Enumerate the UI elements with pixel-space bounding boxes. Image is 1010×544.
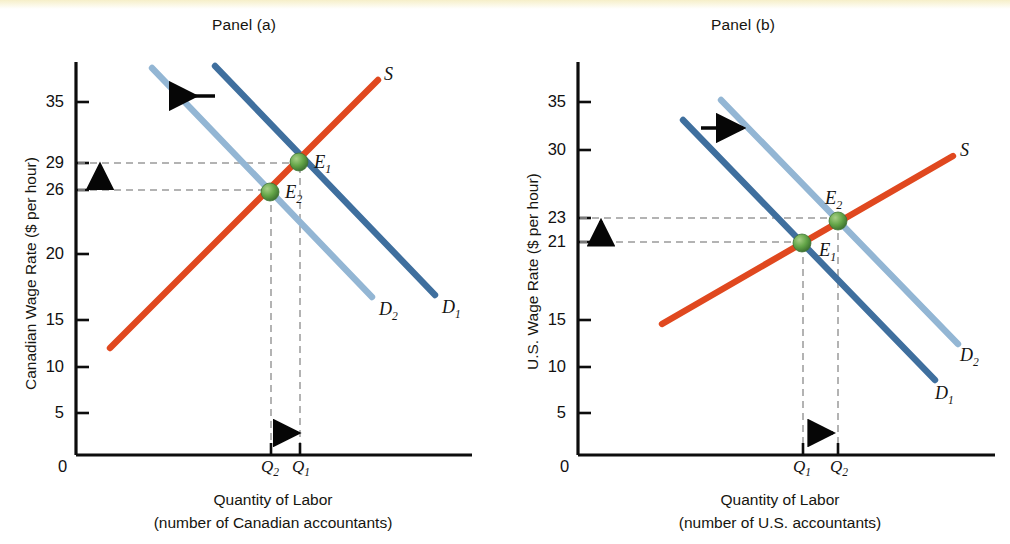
panel-a-equilibrium-label-e2: E2 xyxy=(285,182,302,207)
panel-a-equilibrium-label-e1: E1 xyxy=(314,152,331,177)
panel-a-demand-curve-d1 xyxy=(215,66,435,295)
panel-a: Panel (a) xyxy=(0,0,505,544)
panel-b-origin-label: 0 xyxy=(560,457,569,476)
panel-a-y-axis-title: Canadian Wage Rate ($ per hour) xyxy=(22,157,40,390)
panel-b-ytick-30: 30 xyxy=(532,140,566,159)
panel-a-xtick-q1: Q1 xyxy=(292,457,310,478)
panel-b-x-ticks xyxy=(803,443,838,455)
panel-b-xtick-q1: Q1 xyxy=(793,457,811,478)
panel-b-axes xyxy=(578,62,995,455)
panel-b: Panel (b) xyxy=(505,0,1010,544)
panel-a-x-axis-title-line2: (number of Canadian accountants) xyxy=(78,512,468,534)
panel-b-demand-label-d2: D2 xyxy=(960,345,979,368)
panel-b-demand-label-d1: D1 xyxy=(935,383,954,406)
panel-a-supply-label: S xyxy=(384,64,393,85)
panel-b-xtick-q2: Q2 xyxy=(830,457,848,478)
panel-a-equilibrium-point-e2 xyxy=(261,183,279,201)
panel-a-xtick-q2: Q2 xyxy=(261,457,279,478)
panel-b-equilibrium-point-e1 xyxy=(793,234,811,252)
panel-b-ytick-35: 35 xyxy=(532,92,566,111)
panel-a-demand-label-d1: D1 xyxy=(442,297,461,320)
panel-a-axes xyxy=(76,62,472,455)
panel-a-plot xyxy=(0,0,505,544)
panel-b-y-axis-title: U.S. Wage Rate ($ per hour) xyxy=(524,173,542,370)
panel-b-supply-label: S xyxy=(960,140,969,161)
panel-b-y-ticks xyxy=(578,102,591,413)
panel-a-demand-curve-d2 xyxy=(152,68,372,297)
panel-a-x-axis-title-line1: Quantity of Labor xyxy=(78,489,468,511)
panel-a-demand-label-d2: D2 xyxy=(379,299,398,322)
panel-a-ytick-35: 35 xyxy=(30,92,64,111)
panel-a-origin-label: 0 xyxy=(58,457,67,476)
economics-figure: Panel (a) xyxy=(0,0,1010,544)
panel-a-equilibrium-point-e1 xyxy=(290,153,308,171)
panel-a-guides xyxy=(78,163,300,443)
panel-a-ytick-5: 5 xyxy=(30,403,64,422)
panel-a-x-ticks xyxy=(271,443,300,455)
panel-b-demand-curve-d1 xyxy=(683,120,935,380)
panel-b-equilibrium-label-e2: E2 xyxy=(825,188,842,213)
panel-b-equilibrium-point-e2 xyxy=(829,212,847,230)
panel-a-y-ticks xyxy=(76,102,89,413)
panel-b-x-axis-title-line2: (number of U.S. accountants) xyxy=(580,512,980,534)
panel-a-supply-curve xyxy=(110,80,378,348)
panel-b-x-axis-title-line1: Quantity of Labor xyxy=(580,489,980,511)
panel-b-equilibrium-label-e1: E1 xyxy=(819,240,836,265)
panel-b-plot xyxy=(505,0,1010,544)
panel-b-ytick-5: 5 xyxy=(532,403,566,422)
